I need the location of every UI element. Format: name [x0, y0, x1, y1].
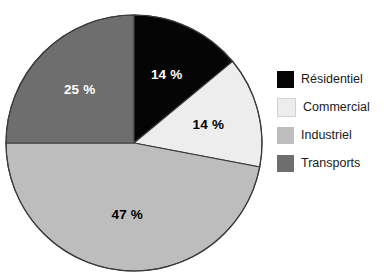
legend-swatch-industriel — [277, 127, 294, 144]
legend-item-residentiel[interactable]: Résidentiel — [277, 69, 384, 89]
legend-item-transports[interactable]: Transports — [277, 153, 384, 173]
pie-svg: 14 %14 %47 %25 % — [0, 0, 270, 275]
pie-slice-transports[interactable] — [6, 15, 134, 143]
legend-swatch-commercial — [277, 98, 296, 117]
pie-data-label-industriel: 47 % — [112, 207, 144, 222]
pie-data-label-commercial: 14 % — [193, 117, 225, 132]
legend-label-industriel: Industriel — [301, 129, 352, 142]
legend-swatch-transports — [277, 155, 294, 172]
pie-data-label-transports: 25 % — [64, 82, 96, 97]
legend-swatch-residentiel — [277, 71, 294, 88]
pie-slice-group — [6, 15, 262, 271]
legend: Résidentiel Commercial Industriel Transp… — [277, 69, 384, 173]
legend-label-residentiel: Résidentiel — [301, 73, 363, 86]
legend-label-transports: Transports — [301, 157, 360, 170]
legend-item-commercial[interactable]: Commercial — [277, 97, 384, 117]
legend-label-commercial: Commercial — [303, 101, 370, 114]
pie-chart-figure: 14 %14 %47 %25 % Résidentiel Commercial … — [0, 0, 384, 275]
pie-data-label-résidentiel: 14 % — [151, 67, 183, 82]
pie-plot-area: 14 %14 %47 %25 % — [0, 0, 270, 275]
legend-item-industriel[interactable]: Industriel — [277, 125, 384, 145]
